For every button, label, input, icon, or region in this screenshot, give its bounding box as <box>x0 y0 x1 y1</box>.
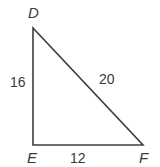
side-length-label-df: 20 <box>99 72 115 86</box>
triangle-outline <box>33 28 143 145</box>
vertex-label-f: F <box>139 150 148 165</box>
vertex-label-e: E <box>27 150 37 165</box>
vertex-label-d: D <box>28 5 39 20</box>
side-length-label-de: 16 <box>10 75 26 89</box>
side-length-label-ef: 12 <box>70 151 86 165</box>
triangle-figure: D E F 16 20 12 <box>0 0 160 167</box>
